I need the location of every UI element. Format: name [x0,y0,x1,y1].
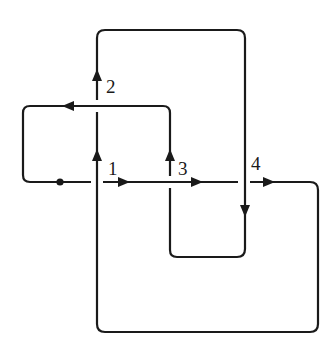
arrow-left-icon [62,101,74,111]
arrow-right-icon [118,177,130,187]
strand-outer-bottom [97,112,318,332]
arrow-up-icon [92,69,102,81]
knot-diagram: 1 2 3 4 [0,0,333,347]
basepoint-dot [56,178,63,185]
crossing-label-4: 4 [251,153,261,174]
arrow-right-icon [263,177,275,187]
crossing-label-3: 3 [178,158,188,179]
arrow-up-icon [92,149,102,161]
crossing-label-1: 1 [108,158,118,179]
crossing-label-2: 2 [106,76,116,97]
arrow-down-icon [240,205,250,217]
arrow-right-icon [191,177,203,187]
arrow-up-icon [165,149,175,161]
